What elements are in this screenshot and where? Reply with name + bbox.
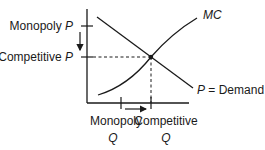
monopoly-p-label: Monopoly P — [10, 19, 73, 33]
competitive-p-label: Competitive P — [0, 50, 73, 64]
competitive-q-label: Competitive — [134, 114, 198, 128]
mc-label: MC — [203, 8, 222, 22]
competitive-q-var: Q — [161, 131, 170, 145]
axes — [87, 9, 189, 103]
mc-curve — [98, 18, 197, 95]
demand-label: P = Demand — [197, 83, 264, 97]
monopoly-q-var: Q — [108, 131, 117, 145]
monopoly-vs-competition-diagram: Monopoly P Competitive P MC P = Demand M… — [0, 0, 265, 150]
equilibrium-point — [149, 55, 153, 59]
demand-curve — [97, 17, 193, 88]
